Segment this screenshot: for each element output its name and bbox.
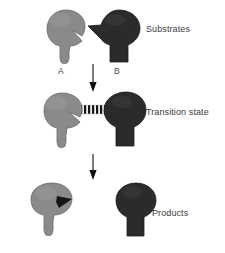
label-transition-state: Transition state [146, 107, 209, 117]
transition-b-highlight [112, 96, 132, 108]
product-a-highlight [35, 186, 57, 200]
substrate-b-highlight [105, 14, 125, 26]
diagram-canvas [0, 0, 225, 253]
reaction-diagram: Substrates Transition state Products A B [0, 0, 225, 253]
label-substrates: Substrates [146, 24, 190, 34]
label-molecule-b: B [114, 66, 120, 76]
label-products: Products [152, 208, 188, 218]
product-b-highlight [122, 186, 142, 198]
transition-a-highlight [45, 96, 67, 110]
label-molecule-a: A [58, 66, 64, 76]
substrate-a-highlight [49, 13, 71, 27]
